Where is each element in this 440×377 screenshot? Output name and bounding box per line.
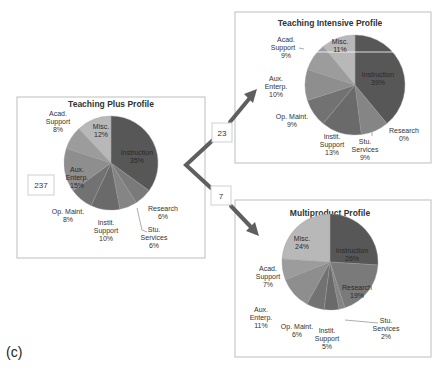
label-acad-support-2: Support [46,118,71,126]
label-instit-support: Instit. [324,133,341,140]
label-research-pct: 19% [350,292,364,299]
label-aux-enterp: Aux. [254,306,268,313]
label-stu-services: Stu. [380,317,393,324]
label-misc-pct: 12% [94,131,108,138]
label-stu-services-2: Services [141,234,168,241]
label-stu-services: Stu. [148,226,161,233]
label-acad-support: Acad. [277,36,295,43]
label-acad-support-2: Support [271,44,296,52]
label-aux-enterp: Aux. [70,166,84,173]
label-misc: Misc. [93,123,109,130]
label-acad-support-pct: 8% [53,126,63,133]
label-instruction: Instruction [336,247,368,254]
label-instruction-pct: 26% [345,255,359,262]
label-instruction-pct: 39% [371,79,385,86]
label-instruction-pct: 35% [130,157,144,164]
label-instruction: Instruction [362,71,394,78]
label-instit-support-pct: 10% [99,235,113,242]
label-stu-services-2: Services [373,325,400,332]
label-research: Research [148,205,178,212]
label-aux-enterp-2: Enterp. [250,314,273,322]
label-aux-enterp-2: Enterp. [66,174,89,182]
label-stu-services-pct: 2% [381,333,391,340]
label-op-maint-pct: 6% [292,331,302,338]
label-acad-support: Acad. [259,265,277,272]
count-23: 23 [218,129,227,138]
label-instit-support: Instit. [98,219,115,226]
teaching-intensive-title: Teaching Intensive Profile [278,18,383,28]
label-acad-support: Acad. [49,110,67,117]
label-aux-enterp: Aux. [269,75,283,82]
label-op-maint: Op. Maint. [52,208,84,216]
label-instit-support-2: Support [315,335,340,343]
label-op-maint-pct: 8% [63,216,73,223]
label-instruction: Instruction [121,149,153,156]
label-aux-enterp-2: Enterp. [265,83,288,91]
label-instit-support-2: Support [94,227,119,235]
label-stu-services: Stu. [359,138,372,145]
teaching-intensive-panel: Teaching Intensive Profile Acad. Support… [235,12,431,163]
label-op-maint: Op. Maint. [281,323,313,331]
label-misc-pct: 24% [295,243,309,250]
count-7: 7 [219,192,224,201]
label-acad-support-pct: 9% [281,52,291,59]
label-op-maint: Op. Maint. [276,113,308,121]
label-stu-services-pct: 9% [360,154,370,161]
label-misc: Misc. [294,235,310,242]
figure-label: (c) [6,344,22,360]
count-237: 237 [34,181,48,190]
label-instit-support-2: Support [320,141,345,149]
label-instit-support-pct: 5% [322,343,332,350]
label-stu-services-pct: 6% [149,242,159,249]
teaching-plus-title: Teaching Plus Profile [68,99,154,109]
multiproduct-panel: Multiproduct Profile Misc. 24% Instructi… [235,200,431,357]
label-research: Research [342,284,372,291]
label-acad-support-pct: 7% [263,281,273,288]
label-aux-enterp-pct: 10% [269,91,283,98]
label-research-pct: 0% [399,135,409,142]
label-stu-services-2: Services [352,146,379,153]
label-aux-enterp-pct: 15% [70,182,84,189]
teaching-intensive-pie [305,35,405,135]
label-misc: Misc. [332,38,348,45]
label-instit-support-pct: 13% [325,149,339,156]
label-research-pct: 6% [158,213,168,220]
label-research: Research [389,127,419,134]
figure-canvas: Teaching Plus Profile Acad. Support 8% M… [0,0,440,377]
label-aux-enterp-pct: 11% [254,322,268,329]
label-misc-pct: 11% [333,46,347,53]
label-op-maint-pct: 9% [287,121,297,128]
label-acad-support-2: Support [256,273,281,281]
teaching-plus-panel: Teaching Plus Profile Acad. Support 8% M… [17,97,205,258]
label-instit-support: Instit. [319,327,336,334]
